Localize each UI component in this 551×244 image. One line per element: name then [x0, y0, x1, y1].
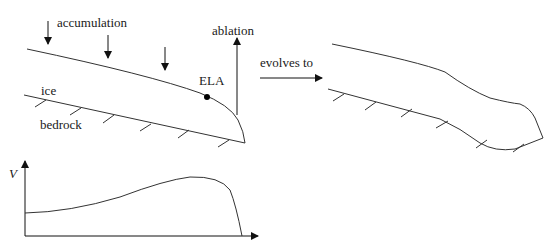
ela-label: ELA [199, 74, 224, 87]
evolved-glacier [328, 44, 543, 152]
bedrock-label: bedrock [40, 118, 82, 131]
velocity-axis-label: V [9, 167, 17, 180]
ablation-label: ablation [212, 24, 254, 37]
accumulation-label: accumulation [57, 16, 127, 29]
evolved-ice-surface-line [332, 44, 543, 138]
evolved-bedrock-line [328, 89, 543, 150]
ela-point [204, 94, 210, 100]
velocity-curve [25, 177, 242, 236]
evolved-bedrock-hatches [333, 94, 524, 152]
evolves-to-label: evolves to [260, 56, 313, 69]
velocity-plot [25, 161, 258, 236]
diagram-canvas [0, 0, 551, 244]
ice-label: ice [41, 84, 56, 97]
glacier-diagram: accumulation ablation ELA ice bedrock ev… [0, 0, 551, 244]
initial-glacier [24, 49, 245, 147]
